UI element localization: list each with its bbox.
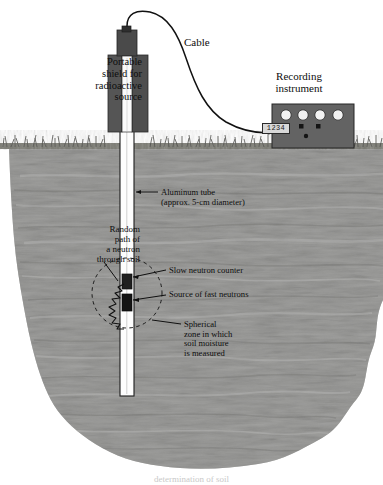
- knob-2[interactable]: [316, 124, 321, 129]
- dial-1[interactable]: [281, 110, 291, 120]
- slow-neutron-counter-body: [122, 274, 132, 289]
- label-portable-shield: Portable shield for radioactive source: [56, 56, 142, 103]
- label-recording-instrument: Recording instrument: [256, 70, 342, 95]
- instrument-readout-display: 1234: [262, 123, 290, 134]
- knob-1[interactable]: [299, 124, 304, 129]
- figure-caption: determination of soil: [0, 474, 383, 484]
- label-slow-neutron-counter: Slow neutron counter: [169, 266, 243, 276]
- shield-cable-gland: [122, 26, 131, 32]
- dial-2[interactable]: [298, 110, 308, 120]
- label-random-path: Random path of a neutron through soil: [58, 224, 140, 264]
- label-aluminum-tube: Aluminum tube (approx. 5-cm diameter): [161, 188, 273, 207]
- shield-cap: [117, 30, 137, 56]
- figure-canvas: Portable shield for radioactive source C…: [0, 0, 383, 485]
- label-spherical-zone: Spherical zone in which soil moisture is…: [184, 320, 292, 359]
- label-cable: Cable: [184, 36, 210, 48]
- dial-3[interactable]: [315, 110, 325, 120]
- fast-neutron-source-body: [122, 294, 132, 311]
- knob-3[interactable]: [304, 134, 308, 138]
- dial-4[interactable]: [333, 110, 343, 120]
- label-source-fast-neutrons: Source of fast neutrons: [169, 290, 248, 300]
